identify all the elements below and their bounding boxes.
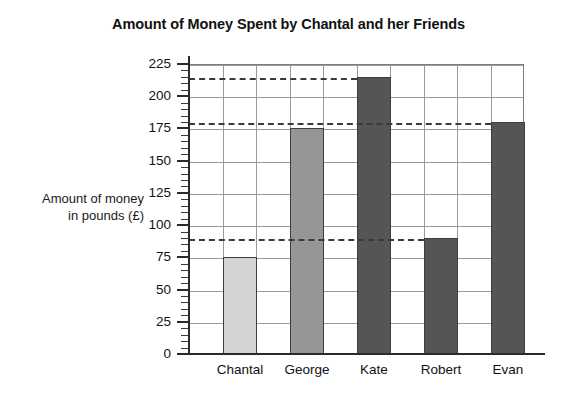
y-tick-minor: [181, 174, 188, 175]
y-tick-minor: [181, 315, 188, 316]
y-tick-minor: [181, 264, 188, 265]
y-tick-minor: [181, 154, 188, 155]
y-tick-minor: [181, 116, 188, 117]
y-tick-minor: [181, 302, 188, 303]
y-tick-minor: [181, 328, 188, 329]
y-tick-minor: [181, 270, 188, 271]
bar-chart: Amount of Money Spent by Chantal and her…: [0, 0, 577, 407]
y-axis-label-125: 125: [125, 186, 171, 199]
y-tick-minor: [181, 238, 188, 239]
y-tick-major: [177, 256, 188, 258]
y-tick-minor: [181, 83, 188, 84]
chart-title: Amount of Money Spent by Chantal and her…: [0, 16, 577, 32]
y-tick-minor: [181, 141, 188, 142]
y-tick-minor: [181, 283, 188, 284]
y-axis-label-50: 50: [125, 283, 171, 296]
y-tick-minor: [181, 122, 188, 123]
guide-line-180: [189, 123, 491, 125]
guide-line-215: [189, 78, 357, 80]
y-tick-minor: [181, 186, 188, 187]
y-tick-minor: [181, 70, 188, 71]
bar-evan[interactable]: [491, 122, 525, 354]
y-tick-major: [177, 127, 188, 129]
y-tick-minor: [181, 277, 188, 278]
y-tick-major: [177, 321, 188, 323]
x-axis-line: [189, 353, 545, 355]
y-tick-minor: [181, 206, 188, 207]
y-tick-minor: [181, 348, 188, 349]
guide-line-90: [189, 239, 424, 241]
y-axis-label-175: 175: [125, 121, 171, 134]
y-tick-minor: [181, 244, 188, 245]
gridline-horizontal: [189, 65, 523, 66]
y-tick-minor: [181, 309, 188, 310]
y-tick-major: [177, 95, 188, 97]
gridline-horizontal: [189, 226, 523, 227]
bar-george[interactable]: [290, 128, 324, 354]
y-tick-minor: [181, 341, 188, 342]
y-tick-major: [177, 192, 188, 194]
x-axis-label-evan: Evan: [463, 362, 553, 377]
gridline-horizontal: [189, 97, 523, 98]
gridline-horizontal: [189, 162, 523, 163]
bar-robert[interactable]: [424, 238, 458, 354]
y-axis-label-225: 225: [125, 57, 171, 70]
y-tick-minor: [181, 103, 188, 104]
y-tick-minor: [181, 90, 188, 91]
bar-kate[interactable]: [357, 77, 391, 354]
y-axis-label-0: 0: [125, 347, 171, 360]
y-tick-major: [177, 289, 188, 291]
y-tick-major: [177, 353, 188, 355]
y-tick-minor: [181, 219, 188, 220]
y-tick-minor: [181, 77, 188, 78]
y-axis-label-100: 100: [125, 218, 171, 231]
y-axis-label-25: 25: [125, 315, 171, 328]
y-tick-minor: [181, 180, 188, 181]
gridline-horizontal: [189, 194, 523, 195]
y-tick-minor: [181, 212, 188, 213]
y-axis-label-75: 75: [125, 250, 171, 263]
y-tick-minor: [181, 232, 188, 233]
y-tick-minor: [181, 135, 188, 136]
y-axis-line: [188, 56, 190, 355]
y-axis-label-150: 150: [125, 154, 171, 167]
gridline-horizontal: [189, 129, 523, 130]
y-tick-major: [177, 63, 188, 65]
y-tick-minor: [181, 148, 188, 149]
y-tick-minor: [181, 335, 188, 336]
y-tick-minor: [181, 251, 188, 252]
y-tick-major: [177, 160, 188, 162]
y-tick-major: [177, 224, 188, 226]
plot-area: [189, 64, 524, 354]
bar-chantal[interactable]: [223, 257, 257, 354]
y-tick-minor: [181, 199, 188, 200]
y-axis-label-200: 200: [125, 89, 171, 102]
y-tick-minor: [181, 167, 188, 168]
y-tick-minor: [181, 296, 188, 297]
y-tick-minor: [181, 109, 188, 110]
